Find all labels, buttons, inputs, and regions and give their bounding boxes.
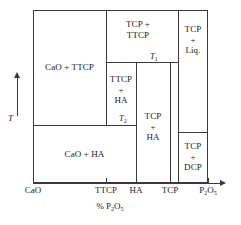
x-tick-label-cao: CaO	[21, 185, 45, 195]
region-label-tcp-liq: TCP + Liq.	[178, 24, 208, 56]
x-tick-cao	[33, 178, 34, 184]
phase-diagram: CaO + TTCP TCP + TTCP TCP + Liq. TTCP + …	[0, 0, 241, 225]
t2-subscript: 2	[124, 118, 127, 124]
x-tick-label-tcp: TCP	[156, 185, 184, 195]
boundary-tcp-vertical	[170, 62, 171, 183]
y-axis-line	[17, 78, 18, 116]
x-tick-tcp	[170, 178, 171, 184]
temperature-marker-t2: T2	[119, 113, 127, 123]
p2o5-o: O	[207, 185, 214, 195]
region-label-tcp-dcp: TCP + DCP	[178, 141, 208, 173]
y-axis-title: T	[8, 113, 13, 123]
x-tick-label-ttcp: TTCP	[90, 185, 122, 195]
p2o5-sub-2: 2	[204, 190, 207, 196]
x-tick-label-ha: HA	[125, 185, 147, 195]
x-axis-line	[33, 183, 222, 184]
boundary-cao-ha-top	[33, 125, 137, 126]
x-axis-title-sub-2: 2	[111, 206, 114, 212]
region-label-tcp-ttcp: TCP + TTCP	[106, 19, 170, 40]
region-label-tcp-ha: TCP + HA	[136, 111, 170, 143]
x-axis-title-percent: % P	[97, 201, 111, 211]
region-label-cao-ha: CaO + HA	[33, 149, 136, 160]
boundary-tcp-dcp-top	[178, 132, 208, 133]
x-tick-ttcp	[106, 178, 107, 184]
boundary-t1-line	[106, 62, 179, 63]
x-axis-title-sub-5: 5	[120, 206, 123, 212]
temperature-marker-t1: T1	[150, 51, 158, 61]
t1-subscript: 1	[155, 56, 158, 62]
region-label-cao-ttcp: CaO + TTCP	[33, 62, 106, 73]
x-tick-p2o5	[208, 178, 209, 184]
x-axis-title: % P2O5	[0, 201, 220, 211]
x-tick-ha	[136, 178, 137, 184]
y-axis-arrow-icon	[14, 72, 20, 78]
region-label-ttcp-ha: TTCP + HA	[106, 74, 136, 106]
p2o5-sub-5: 5	[214, 190, 217, 196]
x-tick-label-p2o5: P2O5	[194, 185, 222, 195]
